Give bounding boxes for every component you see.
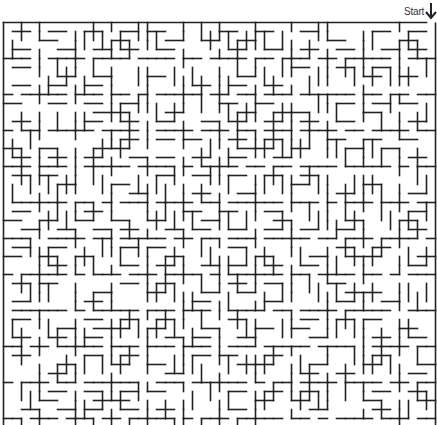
arrow-down-icon [424, 2, 437, 20]
maze-puzzle: Start [0, 0, 437, 425]
start-label: Start [404, 6, 424, 17]
maze-grid [0, 0, 437, 425]
